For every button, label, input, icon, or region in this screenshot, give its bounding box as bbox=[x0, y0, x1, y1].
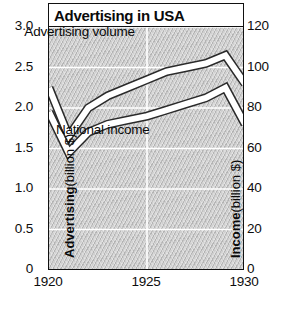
page-title: Advertising in USA bbox=[49, 7, 184, 24]
series-label-advertising-volume: Advertising volume bbox=[24, 24, 134, 39]
plot-canvas bbox=[49, 27, 244, 270]
y-left-tick-2-5: 2.5 bbox=[0, 59, 33, 74]
plot-area bbox=[48, 27, 244, 270]
y-right-axis-title: Income(billion $) bbox=[228, 160, 243, 258]
chart-title-box: Advertising in USA bbox=[48, 3, 244, 27]
chart-figure: Advertising in USA 3.0 2.5 2.0 1.5 1.0 0… bbox=[0, 0, 281, 310]
y-left-tick-2-0: 2.0 bbox=[0, 99, 33, 114]
x-tick-1930: 1930 bbox=[221, 274, 267, 289]
x-tick-1920: 1920 bbox=[25, 274, 71, 289]
y-right-axis-title-unit: (billion $) bbox=[228, 160, 243, 213]
y-left-axis-title: Advertising(billion $) bbox=[62, 134, 77, 258]
x-tick-1925: 1925 bbox=[123, 274, 169, 289]
y-right-tick-120: 120 bbox=[247, 18, 281, 33]
series-label-national-income: National income bbox=[56, 122, 150, 137]
y-right-tick-60: 60 bbox=[247, 140, 281, 155]
y-left-tick-0-5: 0.5 bbox=[0, 221, 33, 236]
y-right-tick-20: 20 bbox=[247, 221, 281, 236]
y-right-tick-80: 80 bbox=[247, 99, 281, 114]
y-left-axis-title-unit: (billion $) bbox=[62, 134, 77, 187]
y-left-tick-1-5: 1.5 bbox=[0, 140, 33, 155]
y-left-tick-1-0: 1.0 bbox=[0, 180, 33, 195]
y-right-axis-title-name: Income bbox=[228, 212, 243, 258]
y-left-axis-title-name: Advertising bbox=[62, 186, 77, 258]
y-right-tick-100: 100 bbox=[247, 59, 281, 74]
y-right-tick-40: 40 bbox=[247, 180, 281, 195]
